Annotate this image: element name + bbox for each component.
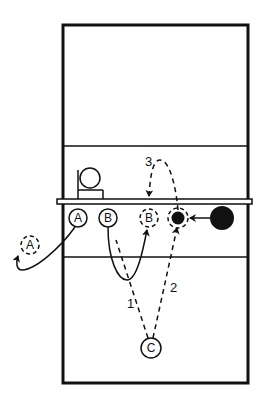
court-svg: 3 1 2 A B B A C [0, 0, 265, 400]
path-1-label: 1 [127, 296, 134, 311]
volleyball-drill-diagram: 3 1 2 A B B A C [0, 0, 265, 400]
coach-on-box-icon [78, 168, 103, 199]
player-c: C [141, 338, 161, 358]
svg-text:A: A [26, 238, 34, 252]
svg-text:B: B [104, 211, 112, 225]
svg-text:B: B [145, 211, 153, 225]
player-a: A [69, 209, 87, 227]
player-a-destination: A [21, 236, 39, 254]
player-b-destination: B [140, 209, 158, 227]
svg-text:A: A [74, 211, 82, 225]
svg-text:C: C [147, 341, 156, 355]
ball-target [168, 208, 188, 228]
path-2-label: 2 [170, 280, 177, 295]
path-1-dashed-line [116, 240, 148, 338]
path-3-label: 3 [145, 154, 152, 169]
net [57, 199, 252, 204]
ball-source [210, 206, 234, 230]
player-b-movement-path [108, 227, 147, 280]
player-b: B [99, 209, 117, 227]
